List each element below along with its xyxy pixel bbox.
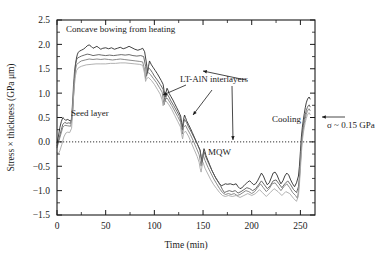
annotation-mqw: MQW xyxy=(208,147,232,157)
x-tick-label: 50 xyxy=(101,221,111,231)
y-tick-label: 0.5 xyxy=(38,113,50,123)
annotation-lt-aln-interlayers: LT-AlN interlayers xyxy=(180,74,249,84)
x-tick-label: 250 xyxy=(293,221,308,231)
x-tick-label: 200 xyxy=(245,221,260,231)
y-axis-label: Stress × thickness (GPa μm) xyxy=(6,63,17,171)
x-tick-label: 0 xyxy=(55,221,60,231)
y-tick-label: 1.5 xyxy=(38,64,50,74)
y-tick-label: −0.5 xyxy=(33,162,50,172)
y-tick-label: −1.0 xyxy=(33,186,50,196)
annotation-seed-layer: Seed layer xyxy=(71,108,109,118)
y-tick-label: 2.0 xyxy=(38,40,50,50)
y-tick-label: −1.5 xyxy=(33,210,50,220)
annotation-cooling: Cooling xyxy=(272,114,302,124)
y-tick-label: 1.0 xyxy=(38,89,50,99)
x-tick-label: 100 xyxy=(147,221,162,231)
annotation-concave-bowing: Concave bowing from heating xyxy=(66,24,176,34)
y-tick-label: 2.5 xyxy=(38,15,50,25)
x-axis-label: Time (min) xyxy=(164,240,207,251)
stress-thickness-chart: 050100150200250 −1.5−1.0−0.50.00.51.01.5… xyxy=(0,0,388,263)
annotation-sigma-value: σ ~ 0.15 GPa xyxy=(327,120,375,130)
chart-svg: 050100150200250 −1.5−1.0−0.50.00.51.01.5… xyxy=(0,0,388,263)
y-tick-label: 0.0 xyxy=(38,137,50,147)
x-tick-label: 150 xyxy=(196,221,211,231)
